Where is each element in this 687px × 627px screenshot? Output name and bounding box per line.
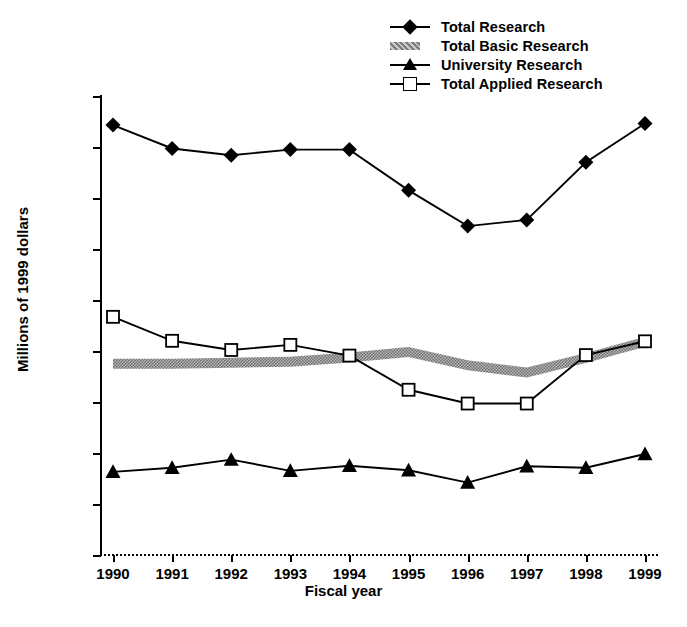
series-university-research (106, 447, 653, 489)
x-axis-title: Fiscal year (0, 582, 687, 599)
data-point-diamond (638, 116, 653, 131)
data-point-square (580, 349, 592, 361)
x-tick-label: 1994 (333, 565, 366, 582)
legend-key-open-square-icon (388, 76, 432, 92)
y-tick (93, 351, 101, 353)
y-tick (93, 504, 101, 506)
data-point-triangle (638, 447, 653, 461)
legend-label: Total Basic Research (441, 38, 589, 54)
chart-figure: Total Research Total Basic Research Univ… (0, 0, 687, 627)
series-line (113, 454, 645, 483)
data-point-square (639, 335, 651, 347)
x-tick-label: 1997 (510, 565, 543, 582)
legend-item-university-research: University Research (388, 56, 603, 74)
data-point-square (521, 398, 533, 410)
legend-item-total-basic-research: Total Basic Research (388, 37, 603, 55)
x-tick (527, 555, 529, 562)
x-tick (645, 555, 647, 562)
x-tick (172, 555, 174, 562)
x-tick (349, 555, 351, 562)
y-tick (93, 555, 101, 557)
data-point-diamond (165, 141, 180, 156)
y-tick (93, 96, 101, 98)
data-series-layer (101, 96, 657, 555)
data-point-square (225, 344, 237, 356)
data-point-diamond (224, 148, 239, 163)
data-point-square (462, 398, 474, 410)
x-tick-label: 1992 (215, 565, 248, 582)
data-point-diamond (401, 183, 416, 198)
series-line (113, 124, 645, 227)
x-tick-label: 1995 (392, 565, 425, 582)
chart-legend: Total Research Total Basic Research Univ… (388, 18, 603, 94)
x-tick-label: 1993 (274, 565, 307, 582)
legend-item-total-applied-research: Total Applied Research (388, 75, 603, 93)
data-point-square (107, 311, 119, 323)
legend-label: Total Applied Research (441, 76, 603, 92)
x-tick (290, 555, 292, 562)
x-tick (113, 555, 115, 562)
x-tick-label: 1991 (155, 565, 188, 582)
legend-label: Total Research (441, 19, 545, 35)
data-point-diamond (460, 219, 475, 234)
x-tick (409, 555, 411, 562)
data-point-square (284, 339, 296, 351)
x-tick (231, 555, 233, 562)
legend-label: University Research (441, 57, 582, 73)
data-point-square (403, 384, 415, 396)
x-tick-label: 1998 (569, 565, 602, 582)
legend-item-total-research: Total Research (388, 18, 603, 36)
data-point-square (343, 350, 355, 362)
legend-key-filled-triangle-icon (388, 57, 432, 73)
y-tick (93, 300, 101, 302)
y-tick (93, 402, 101, 404)
x-tick (586, 555, 588, 562)
x-tick-label: 1990 (96, 565, 129, 582)
data-point-square (166, 335, 178, 347)
y-tick (93, 453, 101, 455)
plot-area: 0100200300400500600700800900 19901991199… (101, 96, 657, 555)
data-point-triangle (224, 452, 239, 466)
data-point-diamond (283, 142, 298, 157)
y-tick (93, 249, 101, 251)
y-axis-title: Millions of 1999 dollars (14, 90, 31, 490)
x-tick-label: 1996 (451, 565, 484, 582)
data-point-triangle (342, 458, 357, 472)
x-tick-label: 1999 (628, 565, 661, 582)
y-tick (93, 198, 101, 200)
y-tick (93, 147, 101, 149)
legend-key-filled-diamond-icon (388, 19, 432, 35)
legend-key-gray-band-icon (388, 38, 432, 54)
series-total-research (106, 116, 653, 234)
data-point-diamond (342, 142, 357, 157)
x-tick (468, 555, 470, 562)
data-point-diamond (106, 118, 121, 133)
